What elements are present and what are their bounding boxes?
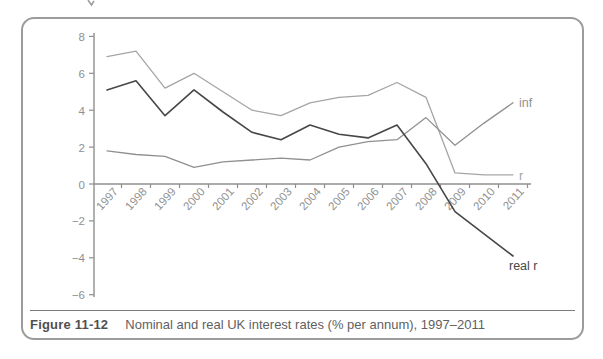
x-tick-label: 1998 (123, 185, 149, 212)
x-tick-label: 2005 (326, 185, 352, 212)
y-tick-label: −2 (72, 215, 85, 227)
x-tick-label: 2011 (501, 185, 526, 211)
caption-separator (30, 310, 575, 311)
x-tick-label: 2004 (297, 185, 323, 212)
y-tick-label: 2 (79, 142, 85, 154)
interest-rates-line-chart: 86420−2−4−619971998199920002001200220032… (0, 0, 603, 359)
x-tick-label: 2009 (442, 185, 468, 212)
figure-11-12-panel: 86420−2−4−619971998199920002001200220032… (0, 0, 603, 359)
r-series-label: r (519, 169, 523, 183)
y-tick-label: 0 (79, 179, 85, 191)
figure-title: Nominal and real UK interest rates (% pe… (125, 317, 485, 332)
figure-caption: Figure 11-12Nominal and real UK interest… (30, 317, 575, 332)
x-tick-label: 1997 (94, 185, 120, 212)
x-tick-label: 2000 (181, 185, 207, 212)
x-tick-label: 2008 (413, 185, 439, 212)
x-tick-label: 2007 (384, 185, 410, 212)
x-tick-label: 2010 (471, 185, 497, 212)
x-tick-label: 2002 (239, 185, 265, 212)
real r-series-label: real r (509, 259, 537, 273)
figure-number: Figure 11-12 (30, 317, 108, 332)
x-tick-label: 2001 (210, 185, 236, 212)
cropped-text-artifact (88, 0, 94, 5)
x-tick-label: 2003 (268, 185, 294, 212)
x-tick-label: 2006 (355, 185, 381, 212)
y-tick-label: −6 (72, 289, 85, 301)
y-tick-label: 8 (79, 31, 85, 43)
real r-line (107, 81, 513, 256)
y-tick-label: 4 (79, 105, 86, 117)
y-tick-label: −4 (72, 252, 86, 264)
x-tick-label: 1999 (152, 185, 178, 212)
inf-series-label: inf (519, 96, 533, 110)
y-tick-label: 6 (79, 68, 85, 80)
